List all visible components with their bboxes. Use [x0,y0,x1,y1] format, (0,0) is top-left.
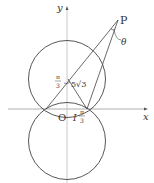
angle-bottom-denominator: 3 [80,117,84,124]
y-axis-arrow [66,6,69,10]
point-p-label: P [120,14,128,27]
point-i-label: I [72,113,77,123]
side-length-label: 5√3 [71,80,86,89]
y-axis-label: y [56,2,63,13]
origin-label: O [58,112,66,123]
geometry-diagram: y x O P I θ π 3 5√3 π 3 [0,0,154,183]
angle-top-denominator: 3 [56,82,60,89]
theta-arc [111,29,115,30]
line-p-to-right-point [87,20,118,109]
theta-label: θ [121,37,127,47]
angle-bottom-numerator: π [80,108,84,115]
line-p-to-left-point [46,20,118,109]
x-axis-label: x [143,111,149,122]
angle-top-numerator: π [56,73,60,80]
theta-leader [114,30,121,40]
